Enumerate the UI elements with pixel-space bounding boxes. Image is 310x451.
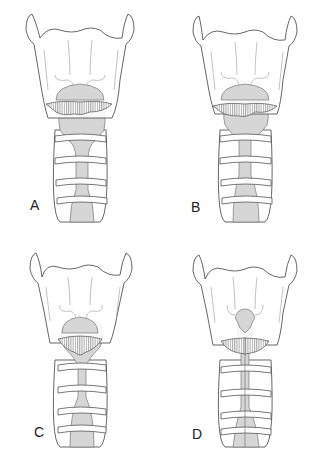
larynx-illustration-b: [155, 0, 310, 225]
panel-label-d: D: [192, 427, 202, 441]
larynx-diagram-figure: A B: [0, 0, 310, 451]
panel-label-a: A: [30, 198, 39, 212]
panel-b: B: [155, 0, 310, 225]
larynx-illustration-a: [0, 0, 155, 225]
panel-c: C: [0, 225, 155, 450]
panel-label-c: C: [34, 425, 44, 439]
larynx-illustration-c: [0, 225, 155, 450]
panel-d: D: [155, 225, 310, 450]
panel-a: A: [0, 0, 155, 225]
larynx-illustration-d: [155, 225, 310, 450]
panel-label-b: B: [191, 200, 200, 214]
